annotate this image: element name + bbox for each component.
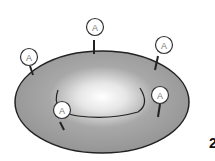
svg-text:A: A <box>161 41 167 51</box>
antigen-top-center-icon: A <box>87 19 104 36</box>
edge-text: 2 <box>209 135 215 151</box>
antigen-inner-right-icon: A <box>152 87 169 104</box>
cell-diagram: A A A A A <box>0 0 215 161</box>
svg-text:A: A <box>26 53 32 63</box>
antigen-inner-left-icon: A <box>54 102 71 119</box>
svg-text:A: A <box>92 23 98 33</box>
svg-text:A: A <box>59 106 65 116</box>
antigen-top-right-icon: A <box>156 37 173 54</box>
antigen-top-left-icon: A <box>21 49 38 66</box>
svg-text:A: A <box>157 91 163 101</box>
